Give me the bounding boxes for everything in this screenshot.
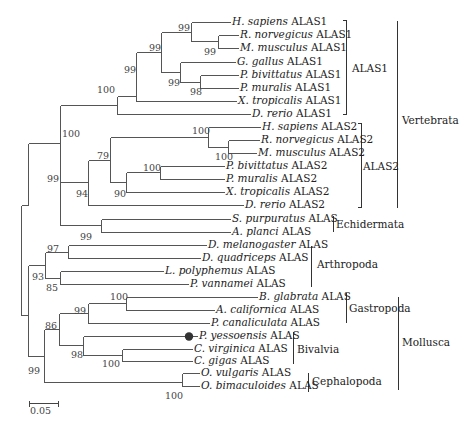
taxon-species: H. sapiens — [232, 15, 288, 27]
clade-label: Mollusca — [402, 336, 450, 348]
taxon-species: A. californica — [216, 303, 287, 315]
clade-label: Echidermata — [336, 218, 404, 230]
taxon-species: X. tropicalis — [238, 94, 302, 106]
taxon-label: P. canaliculata ALAS — [211, 316, 320, 328]
clade-label: Bivalvia — [297, 343, 339, 355]
bootstrap-value: 99 — [168, 78, 180, 88]
taxon-label: A. californica ALAS — [216, 303, 319, 315]
taxon-gene: ALAS — [237, 354, 270, 366]
bootstrap-value: 99 — [28, 366, 40, 376]
taxon-label: P. bivittatus ALAS2 — [226, 159, 327, 171]
taxon-species: P. muralis — [226, 172, 278, 184]
bootstrap-value: 99 — [74, 306, 86, 316]
taxon-gene: ALAS2 — [334, 133, 373, 145]
bootstrap-value: 99 — [80, 232, 92, 242]
taxon-species: M. musculus — [258, 146, 326, 158]
bootstrap-value: 100 — [165, 391, 183, 401]
bootstrap-value: 93 — [32, 272, 44, 282]
taxon-label: H. sapiens ALAS2 — [262, 120, 357, 132]
taxon-gene: ALAS1 — [302, 94, 341, 106]
taxon-species: P. bivittatus — [226, 159, 288, 171]
taxon-species: A. planci — [232, 225, 279, 237]
taxon-label: O. vulgaris ALAS — [201, 366, 291, 378]
taxon-species: H. sapiens — [262, 120, 318, 132]
taxon-gene: ALAS — [267, 329, 300, 341]
filled-circle-marker-icon — [185, 332, 193, 340]
taxon-gene: ALAS — [287, 303, 320, 315]
taxon-label: P. muralis ALAS2 — [226, 172, 317, 184]
taxon-label: C. virginica ALAS — [194, 342, 288, 354]
taxon-species: C. gigas — [194, 354, 237, 366]
taxon-gene: ALAS1 — [292, 81, 331, 93]
bootstrap-value: 86 — [45, 321, 57, 331]
scale-bar-label: 0.05 — [30, 405, 51, 416]
taxon-gene: ALAS — [287, 316, 320, 328]
bootstrap-value: 97 — [47, 244, 59, 254]
taxon-label: L. polyphemus ALAS — [165, 264, 275, 276]
taxon-label: G. gallus ALAS1 — [237, 55, 323, 67]
bootstrap-value: 100 — [97, 85, 115, 95]
bootstrap-value: 100 — [62, 129, 80, 139]
taxon-species: G. gallus — [237, 55, 284, 67]
taxon-label: R. norvegicus ALAS2 — [261, 133, 373, 145]
taxon-species: O. bimaculoides — [201, 379, 286, 391]
taxon-gene: ALAS — [295, 238, 328, 250]
bootstrap-value: 99 — [124, 65, 136, 75]
taxon-species: D. rerio — [252, 107, 293, 119]
taxon-gene: ALAS2 — [286, 198, 325, 210]
taxon-species: R. norvegicus — [240, 28, 313, 40]
taxon-species: P. yessoensis — [199, 329, 267, 341]
taxon-gene: ALAS — [255, 342, 288, 354]
taxon-label: O. bimaculoides ALAS — [201, 379, 319, 391]
taxon-label: P. yessoensis ALAS — [199, 329, 300, 341]
bootstrap-value: 79 — [97, 151, 109, 161]
taxon-label: M. musculus ALAS1 — [240, 41, 347, 53]
taxon-species: L. polyphemus — [165, 264, 243, 276]
taxon-species: D. quadriceps — [202, 251, 276, 263]
bootstrap-value: 99 — [178, 23, 190, 33]
taxon-species: C. virginica — [194, 342, 255, 354]
taxon-species: S. purpuratus — [232, 212, 305, 224]
taxon-gene: ALAS2 — [326, 146, 365, 158]
taxon-species: M. musculus — [240, 41, 308, 53]
taxon-gene: ALAS2 — [318, 120, 357, 132]
taxon-species: P. vannamei — [190, 277, 253, 289]
taxon-species: P. muralis — [240, 81, 292, 93]
taxon-species: D. melanogaster — [208, 238, 295, 250]
taxon-label: P. muralis ALAS1 — [240, 81, 331, 93]
bootstrap-value: 85 — [46, 283, 58, 293]
taxon-label: R. norvegicus ALAS1 — [240, 28, 352, 40]
taxon-label: P. bivittatus ALAS1 — [240, 68, 341, 80]
taxon-label: X. tropicalis ALAS2 — [226, 185, 329, 197]
taxon-species: D. rerio — [245, 198, 286, 210]
markers — [185, 332, 193, 340]
bootstrap-value: 98 — [190, 87, 202, 97]
taxon-label: D. rerio ALAS1 — [252, 107, 332, 119]
bootstrap-value: 100 — [110, 292, 128, 302]
taxon-label: M. musculus ALAS2 — [258, 146, 365, 158]
taxon-label: A. planci ALAS — [232, 225, 311, 237]
taxon-label: C. gigas ALAS — [194, 354, 269, 366]
taxon-gene: ALAS — [276, 251, 309, 263]
taxon-gene: ALAS1 — [288, 15, 327, 27]
bootstrap-value: 100 — [215, 152, 233, 162]
bootstrap-value: 100 — [192, 126, 210, 136]
taxon-gene: ALAS2 — [288, 159, 327, 171]
taxon-label: X. tropicalis ALAS1 — [238, 94, 341, 106]
clade-label: Gastropoda — [349, 302, 411, 314]
taxon-gene: ALAS2 — [278, 172, 317, 184]
bootstrap-value: 90 — [114, 189, 126, 199]
taxon-label: B. glabrata ALAS — [259, 290, 351, 302]
taxon-species: P. bivittatus — [240, 68, 302, 80]
clade-label: Vertebrata — [402, 114, 459, 126]
taxon-gene: ALAS — [318, 290, 351, 302]
bootstrap-value: 98 — [71, 350, 83, 360]
taxon-gene: ALAS — [258, 366, 291, 378]
clade-label: Cephalopoda — [312, 375, 382, 387]
clade-label: ALAS1 — [352, 62, 388, 74]
taxon-gene: ALAS1 — [308, 41, 347, 53]
taxon-species: O. vulgaris — [201, 366, 258, 378]
taxon-species: B. glabrata — [259, 290, 318, 302]
taxon-gene: ALAS1 — [293, 107, 332, 119]
taxon-label: P. vannamei ALAS — [190, 277, 286, 289]
